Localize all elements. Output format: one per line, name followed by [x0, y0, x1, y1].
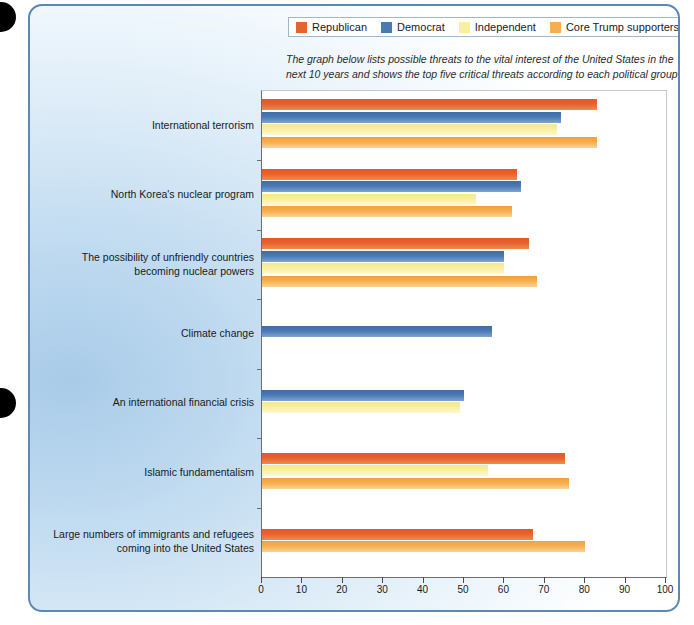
x-axis-tick: [665, 577, 666, 583]
bar-core-trump-supporters: [262, 478, 569, 489]
x-axis-tick-label: 90: [619, 584, 630, 595]
bar-republican: [262, 529, 533, 540]
bar-independent: [262, 465, 488, 476]
x-axis-tick-label: 0: [258, 584, 264, 595]
x-axis-tick: [463, 577, 464, 583]
x-axis-tick: [625, 577, 626, 583]
page-root: RepublicanDemocratIndependentCore Trump …: [0, 0, 694, 625]
category-label-line: coming into the United States: [39, 541, 254, 555]
y-axis-tick: [257, 230, 262, 231]
category-label-line: Climate change: [39, 326, 254, 340]
bar-group: [262, 230, 666, 299]
chart-panel: RepublicanDemocratIndependentCore Trump …: [28, 4, 680, 612]
category-label: An international financial crisis: [39, 395, 254, 409]
bar-independent: [262, 263, 504, 274]
category-label-line: The possibility of unfriendly countries: [39, 250, 254, 264]
x-axis-tick: [503, 577, 504, 583]
y-axis-tick: [257, 508, 262, 509]
plot-region: [261, 90, 667, 578]
bar-democrat: [262, 251, 504, 262]
bar-group: [262, 508, 666, 577]
bar-core-trump-supporters: [262, 137, 597, 148]
bar-republican: [262, 238, 529, 249]
category-label: Large numbers of immigrants and refugees…: [39, 527, 254, 555]
x-axis-tick-label: 100: [657, 584, 674, 595]
bar-democrat: [262, 181, 521, 192]
x-axis-tick: [301, 577, 302, 583]
bar-core-trump-supporters: [262, 276, 537, 287]
x-axis-tick-label: 70: [538, 584, 549, 595]
x-axis-tick: [342, 577, 343, 583]
category-label-line: An international financial crisis: [39, 395, 254, 409]
category-label: The possibility of unfriendly countriesb…: [39, 250, 254, 278]
category-label: International terrorism: [39, 118, 254, 132]
y-axis-tick: [257, 369, 262, 370]
bar-group: [262, 299, 666, 368]
category-label-line: becoming nuclear powers: [39, 264, 254, 278]
category-label: North Korea's nuclear program: [39, 187, 254, 201]
x-axis-tick: [544, 577, 545, 583]
bar-group: [262, 438, 666, 507]
x-axis: 0102030405060708090100: [261, 577, 666, 599]
y-axis-tick: [257, 160, 262, 161]
bar-core-trump-supporters: [262, 206, 512, 217]
bar-independent: [262, 194, 476, 205]
x-axis-tick-label: 30: [377, 584, 388, 595]
x-axis-tick-label: 80: [579, 584, 590, 595]
category-label: Islamic fundamentalism: [39, 465, 254, 479]
bar-republican: [262, 453, 565, 464]
category-label-line: International terrorism: [39, 118, 254, 132]
x-axis-tick-label: 40: [417, 584, 428, 595]
x-axis-tick: [382, 577, 383, 583]
punch-hole-top: [0, 2, 16, 32]
bar-republican: [262, 169, 517, 180]
y-axis-tick: [257, 438, 262, 439]
punch-hole-bottom: [0, 388, 16, 418]
bar-democrat: [262, 390, 464, 401]
y-axis-tick: [257, 299, 262, 300]
bar-democrat: [262, 326, 492, 337]
bar-group: [262, 91, 666, 160]
x-axis-tick-label: 20: [336, 584, 347, 595]
x-axis-tick-label: 60: [498, 584, 509, 595]
bar-independent: [262, 402, 460, 413]
category-label-line: North Korea's nuclear program: [39, 187, 254, 201]
bar-group: [262, 369, 666, 438]
x-axis-tick: [261, 577, 262, 583]
x-axis-tick-label: 50: [457, 584, 468, 595]
x-axis-tick: [423, 577, 424, 583]
x-axis-tick: [584, 577, 585, 583]
category-label-line: Islamic fundamentalism: [39, 465, 254, 479]
bar-democrat: [262, 112, 561, 123]
chart-area: International terrorismNorth Korea's nuc…: [30, 6, 680, 610]
category-label-line: Large numbers of immigrants and refugees: [39, 527, 254, 541]
bar-independent: [262, 124, 557, 135]
x-axis-tick-label: 10: [296, 584, 307, 595]
category-label: Climate change: [39, 326, 254, 340]
bar-core-trump-supporters: [262, 541, 585, 552]
category-label-column: International terrorismNorth Korea's nuc…: [30, 90, 254, 576]
bar-republican: [262, 99, 597, 110]
bar-group: [262, 160, 666, 229]
